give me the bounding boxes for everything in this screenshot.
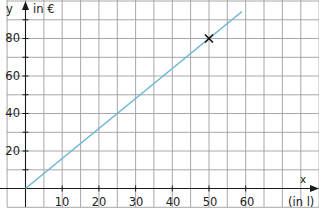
y-tick-label: 80 xyxy=(5,31,20,45)
grid xyxy=(7,0,319,207)
x-axis xyxy=(0,185,319,192)
x-tick-label: 40 xyxy=(166,195,181,209)
x-axis-arrow-icon xyxy=(310,185,319,192)
x-axis-name: x xyxy=(300,173,306,185)
y-tick-label: 60 xyxy=(5,69,20,83)
line-chart: y in € x (in l) 10 20 30 40 50 60 80 60 … xyxy=(0,0,319,216)
x-tick-label: 10 xyxy=(55,195,70,209)
y-axis-unit: in € xyxy=(33,2,54,16)
x-tick-label: 50 xyxy=(203,195,218,209)
x-axis-unit: (in l) xyxy=(288,195,314,209)
x-tick-label: 20 xyxy=(92,195,107,209)
x-tick-label: 60 xyxy=(240,195,255,209)
y-tick-label: 20 xyxy=(5,144,20,158)
x-tick-label: 30 xyxy=(129,195,144,209)
y-axis-name: y xyxy=(6,2,13,16)
y-axis xyxy=(22,1,29,207)
axis-ticks xyxy=(23,20,246,192)
y-axis-arrow-icon xyxy=(22,1,29,10)
y-tick-label: 40 xyxy=(5,106,20,120)
